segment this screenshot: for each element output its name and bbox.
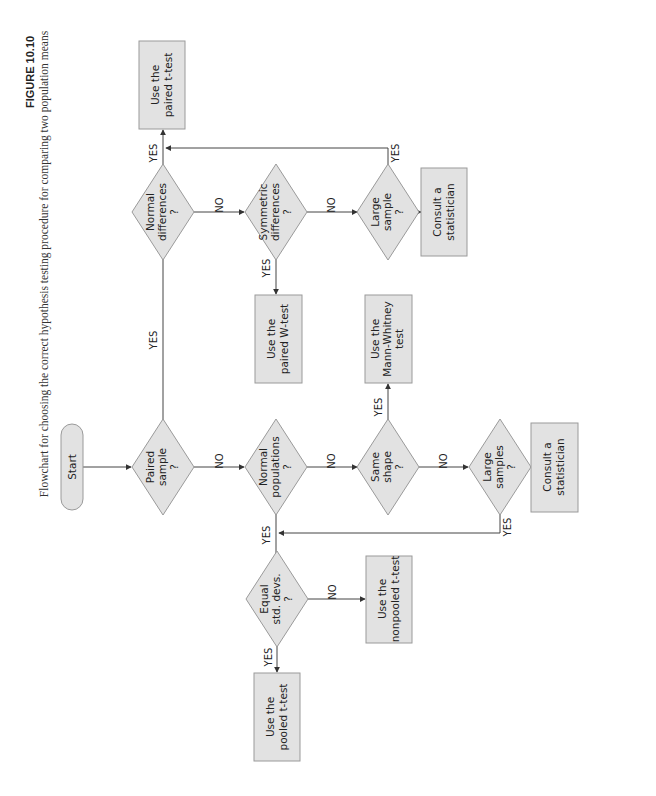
label-normalpop-no: NO xyxy=(326,453,337,468)
decision-text: ? xyxy=(282,596,294,602)
figure-caption: Flowchart for choosing the correct hypot… xyxy=(38,30,51,497)
decision-large-sample: Large sample ? xyxy=(357,164,419,260)
node-start-label: Start xyxy=(66,454,78,480)
outcome-text: Use the xyxy=(149,65,161,105)
outcome-text: Use the xyxy=(264,697,276,737)
outcome-text: Use the xyxy=(376,579,388,619)
decision-large-samples: Large samples ? xyxy=(469,419,531,515)
decision-text: sample xyxy=(381,193,393,231)
decision-text: Paired xyxy=(144,451,156,483)
decision-text: ? xyxy=(168,209,180,215)
decision-text: Equal xyxy=(258,584,270,613)
label-equalstd-no: NO xyxy=(327,584,338,599)
outcome-consult-statistician-bottom: Consult a statistician xyxy=(531,423,578,512)
decision-text: ? xyxy=(505,464,517,470)
decision-equal-std-devs: Equal std. devs. ? xyxy=(246,551,308,647)
label-equalstd-yes: YES xyxy=(263,648,274,668)
decision-text: ? xyxy=(168,464,180,470)
decision-normal-populations: Normal populations ? xyxy=(245,419,307,515)
outcome-text: nonpooled t-test xyxy=(389,556,401,643)
outcome-nonpooled-t-test: Use the nonpooled t-test xyxy=(366,556,412,643)
decision-text: Normal xyxy=(257,448,269,486)
outcome-text: test xyxy=(393,329,405,349)
outcome-text: pooled t-test xyxy=(277,684,289,751)
decision-symmetric-differences: Symmetric differences ? xyxy=(245,164,307,260)
outcome-text: Consult a xyxy=(541,442,553,491)
decision-text: ? xyxy=(281,464,293,470)
flowchart: FIGURE 10.10 Flowchart for choosing the … xyxy=(0,0,656,796)
decision-text: Same xyxy=(369,452,381,482)
outcome-mann-whitney: Use the Mann-Whitney test xyxy=(365,295,412,383)
decision-paired-sample: Paired sample ? xyxy=(132,419,194,515)
node-start: Start xyxy=(61,424,83,510)
outcome-text: Consult a xyxy=(431,187,443,236)
outcome-text: paired W-test xyxy=(278,304,290,374)
decision-text: samples xyxy=(493,445,505,489)
label-paired-yes: YES xyxy=(148,331,159,351)
label-symmetric-yes: YES xyxy=(261,259,272,279)
decision-normal-differences: Normal differences ? xyxy=(132,164,194,260)
decision-text: sample xyxy=(156,448,168,486)
decision-text: populations xyxy=(269,436,281,497)
decision-text: std. devs. xyxy=(270,573,282,624)
decision-text: ? xyxy=(281,209,293,215)
decision-text: differences xyxy=(156,183,168,241)
outcome-text: Use the xyxy=(369,319,381,359)
outcome-text: statistician xyxy=(444,183,456,240)
label-normaldiff-no: NO xyxy=(214,197,225,212)
decision-text: differences xyxy=(269,183,281,241)
decision-same-shape: Same shape ? xyxy=(357,419,419,515)
outcome-paired-t-test: Use the paired t-test xyxy=(139,41,185,129)
figure-label: FIGURE 10.10 xyxy=(24,36,36,108)
label-largesamples-yes: YES xyxy=(502,518,513,538)
label-normalpop-yes: YES xyxy=(261,526,272,546)
label-largesample-yes: YES xyxy=(390,144,401,164)
label-sameshape-no: NO xyxy=(438,453,449,468)
decision-text: Symmetric xyxy=(257,183,269,240)
label-symmetric-no: NO xyxy=(326,197,337,212)
decision-text: ? xyxy=(393,209,405,215)
label-normaldiff-yes: YES xyxy=(148,144,159,164)
outcome-paired-w-test: Use the paired W-test xyxy=(255,295,302,383)
outcome-text: Mann-Whitney xyxy=(381,301,393,377)
decision-text: ? xyxy=(393,464,405,470)
decision-text: shape xyxy=(381,451,393,483)
outcome-text: statistician xyxy=(554,438,566,495)
decision-text: Large xyxy=(481,452,493,482)
outcome-consult-statistician-top: Consult a statistician xyxy=(421,168,467,256)
decision-text: Normal xyxy=(144,193,156,231)
decision-text: Large xyxy=(369,197,381,227)
outcome-text: Use the xyxy=(265,319,277,359)
outcome-pooled-t-test: Use the pooled t-test xyxy=(254,673,300,761)
label-sameshape-yes: YES xyxy=(373,398,384,418)
outcome-text: paired t-test xyxy=(162,53,174,118)
label-paired-no: NO xyxy=(214,453,225,468)
